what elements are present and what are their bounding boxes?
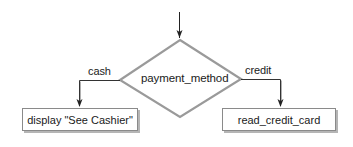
display-see-cashier-box: display "See Cashier" bbox=[22, 108, 138, 131]
read-credit-card-label: read_credit_card bbox=[238, 114, 321, 126]
display-see-cashier-label: display "See Cashier" bbox=[27, 114, 133, 126]
credit-branch-connector bbox=[241, 80, 284, 108]
entry-arrow bbox=[177, 12, 183, 38]
cash-condition-label: cash bbox=[88, 65, 111, 77]
decision-label: payment_method bbox=[141, 72, 228, 84]
credit-condition-label: credit bbox=[245, 64, 271, 76]
read-credit-card-box: read_credit_card bbox=[222, 108, 336, 131]
cash-branch-connector bbox=[77, 81, 121, 108]
